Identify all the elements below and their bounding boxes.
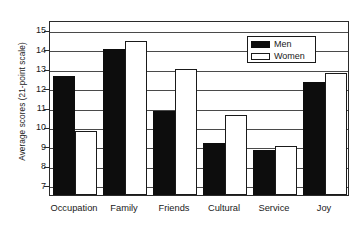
chart-legend: Men Women [247,36,316,63]
y-tick-label: 10 [24,123,46,132]
legend-label-women: Women [274,52,305,61]
x-label-service: Service [249,203,299,213]
y-tick-label: 14 [24,46,46,55]
bar-service-men [253,150,275,195]
bar-joy-women [325,73,347,196]
y-tick-label: 8 [24,162,46,171]
legend-item-women: Women [251,51,312,62]
bar-friends-women [175,69,197,195]
bar-joy-men [303,82,325,195]
legend-swatch-women-icon [251,53,270,60]
bar-friends-men [153,111,175,195]
x-label-cultural: Cultural [199,203,249,213]
y-tick-label: 12 [24,85,46,94]
bar-chart: Average scores (21-point scale) 78910111… [0,0,361,228]
bar-cultural-men [203,143,225,196]
y-axis-title: Average scores (21-point scale) [18,17,27,187]
y-tick-label: 9 [24,143,46,152]
bar-family-men [103,49,125,195]
bar-cultural-women [225,115,247,195]
bar-occupation-men [53,76,75,195]
gridline [50,71,348,72]
x-label-friends: Friends [149,203,199,213]
x-label-family: Family [99,203,149,213]
legend-item-men: Men [251,39,312,50]
y-tick-label: 15 [24,26,46,35]
y-tick-label: 11 [24,104,46,113]
gridline [50,32,348,33]
legend-label-men: Men [274,40,292,49]
legend-swatch-men-icon [251,41,270,48]
y-tick-label: 13 [24,65,46,74]
x-label-joy: Joy [299,203,349,213]
bar-family-women [125,41,147,195]
bar-service-women [275,146,297,195]
y-tick-label: 7 [24,182,46,191]
x-label-occupation: Occupation [49,203,99,213]
bar-occupation-women [75,131,97,195]
